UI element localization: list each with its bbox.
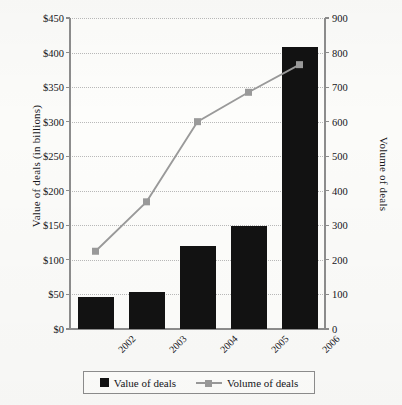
legend-item-volume-of-deals: Volume of deals xyxy=(196,377,298,389)
line-marker-2006 xyxy=(296,61,303,68)
y-axis-left-tick-label: $200 xyxy=(43,185,64,196)
y-axis-left-tick-label: $100 xyxy=(43,254,64,265)
y-axis-right-tick-label: 100 xyxy=(332,289,348,300)
y-axis-right-tick-label: 700 xyxy=(332,82,348,93)
y-axis-right-tick-label: 900 xyxy=(332,13,348,24)
chart-legend: Value of deals Volume of deals xyxy=(83,371,315,394)
line-marker-2003 xyxy=(143,198,150,205)
plot-area: $0$50$100$150$200$250$300$350$400$450 01… xyxy=(70,18,325,329)
y-axis-left-tick-label: $50 xyxy=(48,289,64,300)
y-axis-left-tick-label: $350 xyxy=(43,82,64,93)
x-axis-label-2006: 2006 xyxy=(319,333,341,355)
line-marker-2004 xyxy=(194,118,201,125)
line-series-volume-of-deals xyxy=(70,18,325,329)
line-with-square-marker-icon xyxy=(196,378,222,387)
y-axis-left-tick-label: $0 xyxy=(54,324,65,335)
y-axis-left-tick-label: $150 xyxy=(43,220,64,231)
y-axis-left-title: Value of deals (in billions) xyxy=(30,86,42,246)
y-axis-right-tick-label: 300 xyxy=(332,220,348,231)
x-axis-label-2003: 2003 xyxy=(166,333,188,355)
legend-label-volume-of-deals: Volume of deals xyxy=(227,377,298,389)
chart-figure: Value of deals (in billions) Volume of d… xyxy=(0,0,402,405)
y-axis-left-tick-label: $400 xyxy=(43,47,64,58)
y-axis-left-tick-label: $300 xyxy=(43,116,64,127)
filled-square-marker-icon xyxy=(100,378,109,387)
y-axis-right-tick-label: 500 xyxy=(332,151,348,162)
y-axis-right-title: Volume of deals xyxy=(378,114,390,234)
line-marker-2002 xyxy=(92,248,99,255)
y-axis-right-tick-label: 600 xyxy=(332,116,348,127)
x-axis-label-2004: 2004 xyxy=(217,333,239,355)
y-axis-right-tick-label: 800 xyxy=(332,47,348,58)
x-axis-label-2005: 2005 xyxy=(268,333,290,355)
legend-label-value-of-deals: Value of deals xyxy=(114,377,176,389)
line-marker-2005 xyxy=(245,89,252,96)
x-axis-label-2002: 2002 xyxy=(115,333,137,355)
volume-line-path xyxy=(96,65,300,252)
legend-item-value-of-deals: Value of deals xyxy=(100,377,176,389)
y-axis-left-tick-label: $450 xyxy=(43,13,64,24)
y-axis-left-tick-label: $250 xyxy=(43,151,64,162)
y-axis-right-tick-label: 200 xyxy=(332,254,348,265)
y-axis-right-tick-label: 400 xyxy=(332,185,348,196)
